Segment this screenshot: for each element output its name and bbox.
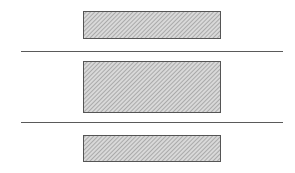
middle-block <box>84 62 221 113</box>
diagram-canvas <box>0 0 295 173</box>
bottom-block <box>84 136 221 162</box>
layered-blocks-diagram <box>0 0 295 173</box>
top-block <box>84 12 221 39</box>
